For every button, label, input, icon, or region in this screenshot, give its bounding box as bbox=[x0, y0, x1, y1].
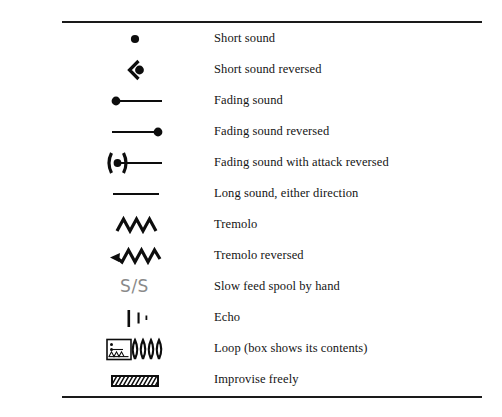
symbol-cell bbox=[62, 209, 207, 240]
symbol-cell bbox=[62, 333, 207, 364]
table-row: Improvise freely bbox=[62, 364, 482, 395]
s-slash-s-text-symbol: S/S bbox=[120, 278, 149, 295]
legend-table: Short sound Short sound reversed Fading … bbox=[62, 23, 482, 395]
parenthesized-dot-then-line-symbol bbox=[90, 149, 180, 177]
bottom-horizontal-rule bbox=[62, 396, 482, 398]
filled-dot-symbol bbox=[90, 26, 180, 52]
legend-label: Short sound reversed bbox=[207, 63, 482, 77]
echo-bars-symbol bbox=[90, 305, 180, 331]
table-row: Tremolo bbox=[62, 209, 482, 240]
box-with-coil-symbol bbox=[90, 334, 180, 364]
dot-with-left-chevron-symbol bbox=[90, 56, 180, 84]
legend-label: Slow feed spool by hand bbox=[207, 280, 482, 294]
legend-label: Echo bbox=[207, 311, 482, 325]
legend-label: Tremolo reversed bbox=[207, 249, 482, 263]
symbol-cell bbox=[62, 240, 207, 271]
legend-page: Short sound Short sound reversed Fading … bbox=[0, 0, 502, 417]
table-row: Loop (box shows its contents) bbox=[62, 333, 482, 364]
legend-label: Improvise freely bbox=[207, 373, 482, 387]
symbol-cell bbox=[62, 54, 207, 85]
hatched-box-symbol bbox=[90, 370, 180, 390]
symbol-cell bbox=[62, 116, 207, 147]
table-row: Fading sound reversed bbox=[62, 116, 482, 147]
table-row: S/S Slow feed spool by hand bbox=[62, 271, 482, 302]
table-row: Tremolo reversed bbox=[62, 240, 482, 271]
table-row: Short sound bbox=[62, 23, 482, 54]
table-row: Fading sound with attack reversed bbox=[62, 147, 482, 178]
legend-label: Loop (box shows its contents) bbox=[207, 342, 482, 356]
symbol-cell bbox=[62, 85, 207, 116]
legend-label: Fading sound with attack reversed bbox=[207, 156, 482, 170]
legend-label: Fading sound bbox=[207, 94, 482, 108]
dot-then-line-symbol bbox=[90, 90, 180, 112]
legend-label: Fading sound reversed bbox=[207, 125, 482, 139]
plain-line-symbol bbox=[90, 185, 180, 203]
symbol-cell bbox=[62, 23, 207, 54]
symbol-cell: S/S bbox=[62, 271, 207, 302]
symbol-cell bbox=[62, 178, 207, 209]
table-row: Echo bbox=[62, 302, 482, 333]
zigzag-symbol bbox=[90, 213, 180, 237]
line-then-dot-symbol bbox=[90, 121, 180, 143]
legend-label: Long sound, either direction bbox=[207, 187, 482, 201]
table-row: Short sound reversed bbox=[62, 54, 482, 85]
legend-label: Tremolo bbox=[207, 218, 482, 232]
symbol-cell bbox=[62, 364, 207, 395]
zigzag-with-left-arrow-symbol bbox=[90, 244, 180, 268]
table-row: Fading sound bbox=[62, 85, 482, 116]
symbol-cell bbox=[62, 302, 207, 333]
legend-label: Short sound bbox=[207, 32, 482, 46]
table-row: Long sound, either direction bbox=[62, 178, 482, 209]
symbol-cell bbox=[62, 147, 207, 178]
